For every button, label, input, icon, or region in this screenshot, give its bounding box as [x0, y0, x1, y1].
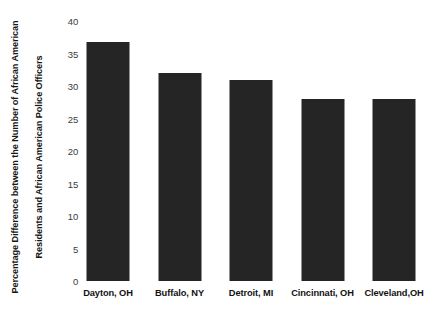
y-axis-tick-30: 30	[52, 81, 78, 92]
x-axis-label: Cincinnati, OH	[291, 288, 354, 298]
y-axis-tick-40: 40	[52, 16, 78, 27]
bar	[87, 42, 130, 281]
plot-area: Dayton, OHBuffalo, NYDetroit, MICincinna…	[82, 0, 432, 313]
x-axis-label: Buffalo, NY	[155, 288, 204, 298]
bar	[158, 73, 201, 281]
y-axis-tick-15: 15	[52, 178, 78, 189]
x-axis-label: Detroit, MI	[229, 288, 273, 298]
y-axis-tick-0: 0	[52, 276, 78, 287]
y-axis-tick-5: 5	[52, 243, 78, 254]
bar	[230, 80, 273, 282]
x-axis-label: Dayton, OH	[83, 288, 133, 298]
bar	[301, 99, 344, 281]
y-axis-tick-25: 25	[52, 113, 78, 124]
y-axis-tick-35: 35	[52, 48, 78, 59]
y-axis-tick-20: 20	[52, 146, 78, 157]
y-axis-title-line-2: Residents and African American Police Of…	[34, 55, 44, 258]
y-axis-tick-labels: 4035302520151050	[52, 0, 78, 313]
y-axis-title: Percentage Difference between the Number…	[0, 0, 52, 313]
y-axis-title-line-1: Percentage Difference between the Number…	[10, 20, 20, 293]
x-axis-label: Cleveland,OH	[364, 288, 423, 298]
y-axis-tick-10: 10	[52, 211, 78, 222]
bar-chart: Percentage Difference between the Number…	[0, 0, 432, 313]
bar	[373, 99, 416, 281]
